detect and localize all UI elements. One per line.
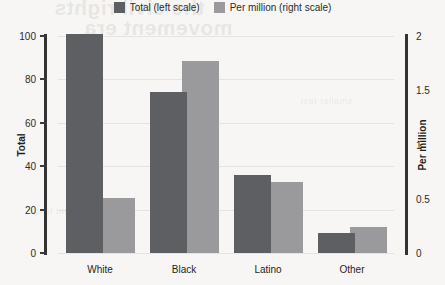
bar-total [66,34,103,253]
y-axis-left-tick [40,78,47,80]
y-axis-left-tick-label: 80 [25,74,36,85]
y-axis-right-tick-label: 2 [416,31,422,42]
x-axis-category-label: White [58,264,142,275]
legend-swatch-per-million-icon [214,2,225,13]
x-axis-category-label: Latino [226,264,310,275]
y-axis-left-tick [40,165,47,167]
legend-swatch-total-icon [114,2,125,13]
bar-group: White [58,36,142,253]
bar-group: Latino [226,36,310,253]
y-axis-left-tick-label: 60 [25,117,36,128]
y-axis-right-tick-label: 0 [416,248,422,259]
y-axis-left-tick [40,35,47,37]
y-axis-left-tick-label: 40 [25,161,36,172]
plot-area: 020406080100 00.511.52 Total Per million… [58,36,394,253]
bar-series-container: WhiteBlackLatinoOther [58,36,394,253]
chart-legend: Total (left scale) Per million (right sc… [0,2,445,13]
y-axis-left-tick-label: 20 [25,204,36,215]
y-axis-left-tick [40,209,47,211]
y-axis-right-line [405,34,408,255]
bar-per-million [266,182,303,253]
bar-total [318,233,355,253]
x-axis-category-label: Other [310,264,394,275]
legend-label-total: Total (left scale) [130,2,200,13]
bar-per-million [98,198,135,253]
bar-total [234,175,271,253]
y-axis-right-tick-label: 1.5 [416,85,430,96]
y-axis-left-tick-label: 0 [30,248,36,259]
gridline [58,253,394,254]
y-axis-left-tick [40,122,47,124]
legend-label-per-million: Per million (right scale) [230,2,332,13]
legend-item-total: Total (left scale) [114,2,200,13]
y-axis-left-line [44,34,47,255]
bar-per-million [182,61,219,253]
y-axis-left-label: Total [16,133,27,156]
bar-group: Other [310,36,394,253]
legend-item-per-million: Per million (right scale) [214,2,332,13]
chart-figure: the civil rights movement era smaller te… [0,0,445,285]
y-axis-right-tick-label: 0.5 [416,193,430,204]
y-axis-left-tick-label: 100 [19,31,36,42]
x-axis-category-label: Black [142,264,226,275]
bar-group: Black [142,36,226,253]
y-axis-left-tick [40,252,47,254]
bar-per-million [350,227,387,253]
y-axis-right-label: Per million [417,119,428,170]
bar-total [150,92,187,253]
